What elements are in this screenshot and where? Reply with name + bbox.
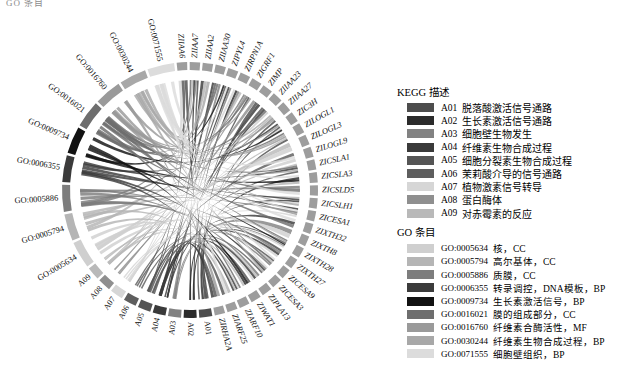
chord-label-ZIIAA30: ZIIAA30 [217, 32, 233, 63]
kegg-legend-code: A08 [441, 195, 457, 205]
chord-diagram-svg: ZIIAA6ZIIAA7ZIIAA2ZIIAA30ZIPYL4ZIRPN1AZI… [0, 0, 390, 367]
go-legend-item[interactable]: GO:0016021膜的组成部分，CC [395, 308, 621, 321]
go-legend-code: GO:0005886 [441, 270, 488, 280]
chord-arc-A07[interactable] [111, 284, 126, 298]
go-legend-item[interactable]: GO:0005886质膜，CC [395, 268, 621, 281]
chord-arc-ZIXTH28[interactable] [292, 245, 304, 258]
chord-arc-ZIGRF1[interactable] [249, 78, 262, 90]
kegg-legend-item[interactable]: A02生长素激活信号通路 [395, 114, 621, 127]
chord-arc-ZILOGL1[interactable] [292, 123, 304, 136]
chord-arc-ZICESA9[interactable] [277, 265, 290, 278]
chord-arc-ZIIAA27[interactable] [277, 102, 290, 115]
go-legend-item[interactable]: GO:0030244纤维素生物合成过程，BP [395, 334, 621, 347]
chord-arc-ZIIAA6[interactable] [177, 62, 188, 71]
chord-label-GO-0005886: GO:0005886 [14, 194, 58, 206]
kegg-legend-item[interactable]: A07植物激素信号转导 [395, 180, 621, 193]
chord-arc-A03[interactable] [168, 308, 182, 317]
go-legend-item[interactable]: GO:0005794高尔基体，CC [395, 255, 621, 268]
go-legend-list: GO:0005634核，CCGO:0005794高尔基体，CCGO:000588… [395, 242, 621, 361]
chord-arc-ZIIAA23[interactable] [269, 93, 282, 106]
go-legend-description: 质膜，CC [493, 268, 536, 282]
chord-arc-A02[interactable] [184, 310, 197, 318]
chord-arc-ZILOGL3[interactable] [298, 135, 309, 148]
chord-arc-GO-0009734[interactable] [68, 128, 86, 155]
chord-arc-ZIPYL4[interactable] [226, 68, 238, 79]
chord-arc-A04[interactable] [153, 305, 167, 316]
kegg-legend-code: A07 [441, 182, 457, 192]
kegg-legend-item[interactable]: A08蛋白酶体 [395, 193, 621, 206]
go-legend-code: GO:0009734 [441, 296, 488, 306]
chord-arc-ZIIAA2[interactable] [202, 63, 213, 72]
go-legend-code: GO:0016021 [441, 309, 488, 319]
chord-arc-A01[interactable] [199, 308, 213, 318]
chord-arc-ZIIAA30[interactable] [214, 65, 226, 75]
go-legend-description: 细胞壁组织，BP [493, 347, 565, 361]
chord-arc-ZICESA1[interactable] [306, 210, 316, 222]
chord-arc-GO-0030244[interactable] [121, 70, 148, 89]
kegg-legend-list: A01脱落酸激活信号通路A02生长素激活信号通路A03细胞壁生物发生A04纤维素… [395, 101, 621, 220]
chord-arc-ZIXTH8[interactable] [298, 234, 309, 247]
chord-label-ZICSLH1: ZICSLH1 [321, 199, 354, 211]
chord-label-GO-0016760: GO:0016760 [74, 52, 109, 91]
go-legend-swatch [407, 336, 434, 345]
chord-arc-ZIARF25[interactable] [225, 301, 237, 312]
chord-label-ZIIAA6: ZIIAA6 [176, 33, 187, 59]
chord-label-A05: A05 [133, 311, 146, 327]
chord-arc-ZICESA3[interactable] [268, 274, 281, 287]
kegg-legend-code: A09 [441, 208, 457, 218]
go-legend-description: 高尔基体，CC [493, 254, 556, 268]
chord-label-GO-0005794: GO:0005794 [21, 224, 66, 246]
go-legend-description: 生长素激活信号，BP [493, 294, 585, 308]
chord-arc-ZIRHA2A[interactable] [213, 305, 225, 315]
go-legend-description: 核，CC [493, 241, 526, 255]
chord-arc-A05[interactable] [138, 300, 153, 312]
chord-arc-A06[interactable] [124, 293, 139, 306]
chord-arc-ZICSLA3[interactable] [309, 172, 318, 183]
kegg-legend-code: A06 [441, 169, 457, 179]
chord-label-A03: A03 [167, 320, 178, 335]
chord-arc-ZICSLH1[interactable] [309, 198, 318, 209]
go-legend-item[interactable]: GO:0006355转录调控，DNA模板，BP [395, 281, 621, 294]
chord-label-ZICSLD5: ZICSLD5 [322, 185, 354, 194]
chord-arc-GO-0005886[interactable] [62, 185, 72, 212]
chord-arc-A09[interactable] [89, 264, 103, 279]
chord-arc-ZIARF10[interactable] [237, 296, 250, 308]
go-legend-description: 膜的组成部分，CC [493, 307, 576, 321]
chord-arc-ZILOGL9[interactable] [303, 147, 314, 159]
chord-label-A09: A09 [76, 272, 93, 288]
chord-arc-ZIWAT1[interactable] [248, 290, 261, 302]
kegg-legend-item[interactable]: A05细胞分裂素生物合成过程 [395, 154, 621, 167]
chord-arc-ZICSLA1[interactable] [306, 159, 316, 171]
go-legend-swatch [407, 323, 434, 332]
kegg-legend-item[interactable]: A06茉莉酸介导的信号通路 [395, 167, 621, 180]
go-legend-item[interactable]: GO:0071555细胞壁组织，BP [395, 347, 621, 360]
go-legend-code: GO:0071555 [441, 349, 488, 359]
chord-arc-ZIXTH27[interactable] [285, 255, 297, 268]
kegg-legend-item[interactable]: A04纤维素生物合成过程 [395, 141, 621, 154]
chord-arc-ZIMP[interactable] [259, 85, 272, 98]
kegg-legend-swatch [407, 129, 434, 138]
chord-arc-ZIC3H[interactable] [285, 112, 297, 125]
chord-arc-ZIRPN1A[interactable] [238, 72, 251, 84]
chord-arc-A08[interactable] [99, 275, 114, 289]
chord-arc-ZICSLD5[interactable] [310, 185, 318, 196]
kegg-legend-item[interactable]: A03细胞壁生物发生 [395, 127, 621, 140]
chord-label-GO-0016021: GO:0016021 [46, 81, 87, 114]
chord-label-GO-0071555: GO:0071555 [146, 18, 165, 63]
chord-arc-GO-0071555[interactable] [147, 63, 175, 77]
kegg-legend-item[interactable]: A01脱落酸激活信号通路 [395, 101, 621, 114]
go-legend-item[interactable]: GO:0005634核，CC [395, 242, 621, 255]
chord-arc-GO-0006355[interactable] [62, 155, 74, 182]
go-legend-item[interactable]: GO:0016760纤维素合酶活性，MF [395, 321, 621, 334]
chord-arc-ZIIAA7[interactable] [190, 62, 201, 70]
chord-arc-GO-0005794[interactable] [64, 213, 79, 241]
kegg-legend-item[interactable]: A09对赤霉素的反应 [395, 207, 621, 220]
chord-arc-ZIXTH32[interactable] [303, 222, 314, 234]
chord-arc-ZIPLA13[interactable] [258, 283, 271, 296]
chord-arc-GO-0005634[interactable] [73, 240, 93, 267]
go-legend-description: 转录调控，DNA模板，BP [493, 281, 605, 295]
go-legend-item[interactable]: GO:0009734生长素激活信号，BP [395, 294, 621, 307]
chord-ribbons [80, 80, 300, 300]
go-legend-code: GO:0006355 [441, 283, 488, 293]
chord-label-ZICSLA1: ZICSLA1 [318, 152, 350, 167]
